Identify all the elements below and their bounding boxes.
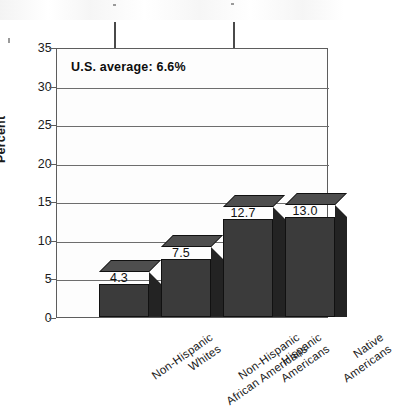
us-average-annotation: U.S. average: 6.6% — [71, 60, 186, 74]
y-tick-mark — [49, 241, 56, 242]
bar-front-face — [99, 284, 149, 317]
scan-speck — [231, 3, 234, 5]
plot-area: 4.3 7.5 12.7 13.0 — [56, 48, 328, 318]
y-tick-mark — [49, 48, 56, 49]
bar-side-face — [335, 205, 347, 317]
gridline-20 — [57, 165, 329, 166]
y-tick-mark — [49, 279, 56, 280]
y-tick-label-5: 5 — [16, 272, 52, 286]
bar-front-face — [285, 217, 335, 317]
category-label-non-hispanic-whites: Non-Hispanic Whites — [149, 330, 224, 394]
y-tick-label-10: 10 — [16, 234, 52, 248]
y-tick-mark — [49, 87, 56, 88]
bar-front-face — [223, 219, 273, 317]
y-tick-mark — [49, 164, 56, 165]
bar-top-face — [99, 260, 161, 272]
scan-noise-band — [0, 0, 344, 20]
bar-value-label: 4.3 — [110, 271, 128, 285]
bar-value-label: 13.0 — [292, 204, 317, 218]
bar-value-label: 12.7 — [230, 206, 255, 220]
y-tick-mark — [49, 125, 56, 126]
bar-top-face — [161, 235, 223, 247]
y-tick-label-30: 30 — [16, 80, 52, 94]
y-tick-mark — [49, 202, 56, 203]
bar-hispanic-americans — [223, 207, 273, 317]
bar-side-face — [149, 272, 161, 317]
gridline-30 — [57, 88, 329, 89]
y-tick-mark — [49, 318, 56, 319]
y-tick-label-15: 15 — [16, 195, 52, 209]
gridline-25 — [57, 126, 329, 127]
bar-front-face — [161, 259, 211, 317]
y-tick-label-20: 20 — [16, 157, 52, 171]
category-label-hispanic-americans: Hispanic Americans — [270, 330, 332, 385]
scan-speck — [113, 4, 116, 6]
category-label-native-americans: Native Americans — [332, 330, 394, 385]
y-tick-label-35: 35 — [16, 41, 52, 55]
scan-speck — [8, 38, 10, 43]
bar-native-americans — [285, 205, 335, 317]
bar-side-face — [211, 247, 223, 317]
bar-side-face — [273, 207, 285, 317]
y-tick-label-25: 25 — [16, 118, 52, 132]
y-tick-label-0: 0 — [16, 311, 52, 325]
y-axis-title: Percent — [0, 116, 8, 163]
bar-value-label: 7.5 — [172, 246, 190, 260]
